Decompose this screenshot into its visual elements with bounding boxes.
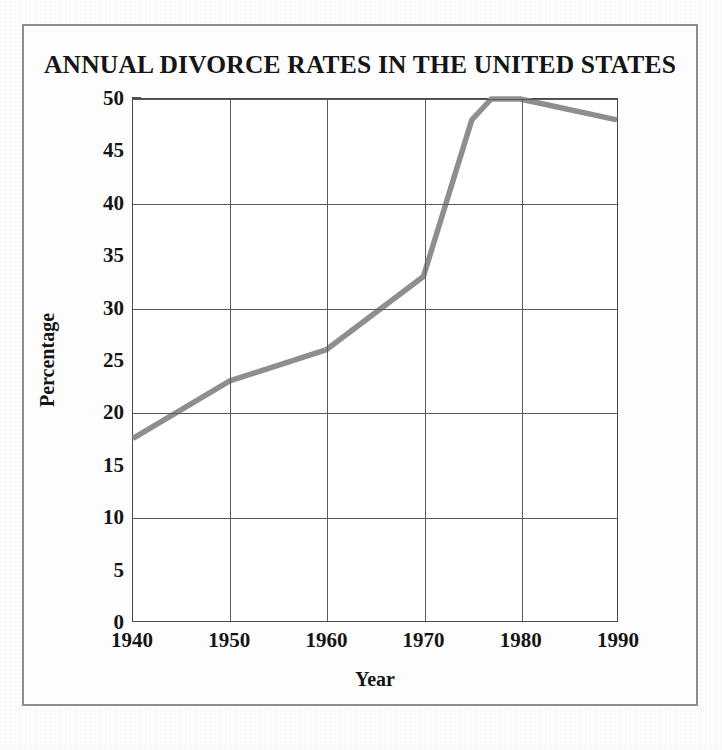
y-tick-label: 40 (64, 192, 124, 213)
data-line-series (133, 99, 617, 621)
plot-area (132, 98, 618, 622)
y-tick-label: 35 (64, 245, 124, 266)
gridline-vertical (522, 99, 523, 621)
page-title: ANNUAL DIVORCE RATES IN THE UNITED STATE… (22, 50, 698, 80)
y-tick-label: 30 (64, 297, 124, 318)
y-tick-label: 25 (64, 350, 124, 371)
gridline-horizontal (133, 99, 617, 100)
y-axis-label: Percentage (36, 260, 59, 460)
gridline-horizontal (133, 309, 617, 310)
y-tick-label: 10 (64, 507, 124, 528)
x-axis-label: Year (132, 668, 618, 691)
y-tick-label: 5 (64, 559, 124, 580)
gridline-vertical (425, 99, 426, 621)
gridline-vertical (230, 99, 231, 621)
gridline-horizontal (133, 204, 617, 205)
y-tick-label: 50 (64, 88, 124, 109)
y-axis-tick-labels: 05101520253035404550 (62, 98, 124, 622)
y-tick-label: 20 (64, 402, 124, 423)
x-tick-label: 1990 (558, 630, 678, 651)
gridline-horizontal (133, 518, 617, 519)
y-tick-label: 45 (64, 140, 124, 161)
gridline-horizontal (133, 413, 617, 414)
x-axis-tick-labels: 194019501960197019801990 (132, 630, 618, 660)
y-tick-label: 15 (64, 454, 124, 475)
gridline-vertical (327, 99, 328, 621)
